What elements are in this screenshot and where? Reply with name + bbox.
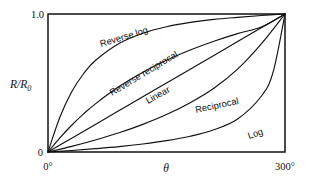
curve-label-reciprocal: Reciprocal <box>194 96 239 115</box>
curve-label-log: Log <box>246 126 264 141</box>
x-tick-label-left: 0° <box>43 161 52 172</box>
x-tick-label-right: 300° <box>275 161 295 172</box>
y-axis-title-subscript: 0 <box>27 84 31 93</box>
curve-label-reverse-log: Reverse log <box>99 25 149 49</box>
svg-text:R/R0: R/R0 <box>9 78 31 93</box>
y-axis-title: R/R0 <box>9 78 31 93</box>
figure-container: 1.0 0 R/R0 0° 300° θ Reverse log Reverse… <box>0 0 311 182</box>
y-tick-label-top: 1.0 <box>31 9 44 20</box>
x-axis-title: θ <box>163 162 169 174</box>
y-tick-label-bottom: 0 <box>38 147 43 158</box>
y-axis-title-main: R/R <box>9 78 27 90</box>
chart-svg: 1.0 0 R/R0 0° 300° θ Reverse log Reverse… <box>0 0 311 182</box>
